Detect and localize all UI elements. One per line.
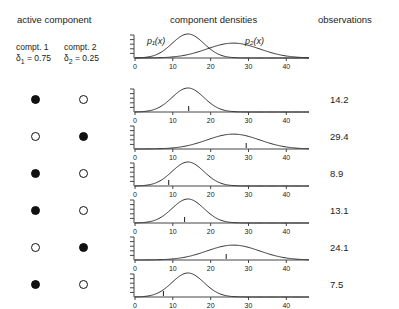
header-observations: observations	[318, 14, 372, 25]
active-component-marker-2[interactable]	[79, 95, 88, 104]
svg-text:20: 20	[207, 63, 215, 70]
density-panel-row: 010203040	[128, 160, 313, 194]
svg-text:10: 10	[169, 63, 177, 70]
svg-text:40: 40	[282, 302, 290, 309]
density-panel-row: 010203040	[128, 234, 313, 268]
svg-text:0: 0	[133, 63, 137, 70]
observation-value: 7.5	[330, 279, 374, 290]
svg-text:40: 40	[282, 63, 290, 70]
active-component-marker-1[interactable]	[31, 243, 40, 252]
legend-component-1-label: compt. 1	[16, 42, 51, 53]
observation-value: 29.4	[330, 131, 374, 142]
active-component-marker-2[interactable]	[79, 169, 88, 178]
active-component-marker-1[interactable]	[31, 280, 40, 289]
active-component-marker-2[interactable]	[79, 280, 88, 289]
density-curve-row	[135, 162, 309, 186]
svg-text:30: 30	[245, 63, 253, 70]
density-panel-row: 010203040	[128, 86, 313, 120]
delta-subscript-2: 2	[69, 58, 73, 65]
legend-component-1: compt. 1 δ1 = 0.75	[16, 42, 51, 67]
svg-text:10: 10	[169, 302, 177, 309]
header-active-component: active component	[17, 14, 91, 25]
legend-component-2-label: compt. 2	[64, 42, 99, 53]
density-plot: 010203040	[128, 160, 313, 198]
density-curve-row	[135, 134, 309, 149]
density-plot: 010203040	[128, 234, 313, 272]
density-curve-row	[135, 199, 309, 223]
legend-component-2-weight: δ2 = 0.25	[64, 53, 99, 67]
active-component-marker-2[interactable]	[79, 243, 88, 252]
observation-value: 14.2	[330, 94, 374, 105]
density-plot: 010203040	[128, 86, 313, 124]
delta-subscript-1: 1	[21, 58, 25, 65]
density-plot: 010203040	[128, 271, 313, 309]
density-curve-row	[135, 88, 309, 112]
density-curve-row	[135, 245, 309, 260]
density-panel-row: 010203040	[128, 123, 313, 157]
observation-value: 24.1	[330, 242, 374, 253]
density-panel-header: 010203040	[128, 32, 313, 66]
legend-component-1-weight: δ1 = 0.75	[16, 53, 51, 67]
density-plot: 010203040	[128, 123, 313, 161]
active-component-marker-1[interactable]	[31, 95, 40, 104]
delta-value-1: = 0.75	[27, 53, 51, 63]
observation-value: 8.9	[330, 168, 374, 179]
delta-value-2: = 0.25	[75, 53, 99, 63]
density-curve-p1	[135, 34, 309, 58]
observation-value: 13.1	[330, 205, 374, 216]
density-panel-row: 010203040	[128, 197, 313, 231]
density-plot: 010203040	[128, 32, 313, 70]
active-component-marker-2[interactable]	[79, 132, 88, 141]
density-panel-row: 010203040	[128, 271, 313, 305]
svg-text:20: 20	[207, 302, 215, 309]
svg-text:30: 30	[245, 302, 253, 309]
density-plot: 010203040	[128, 197, 313, 235]
header-component-densities: component densities	[170, 14, 257, 25]
active-component-marker-1[interactable]	[31, 206, 40, 215]
legend-component-2: compt. 2 δ2 = 0.25	[64, 42, 99, 67]
active-component-marker-2[interactable]	[79, 206, 88, 215]
active-component-marker-1[interactable]	[31, 132, 40, 141]
active-component-marker-1[interactable]	[31, 169, 40, 178]
density-curve-row	[135, 273, 309, 297]
svg-text:0: 0	[133, 302, 137, 309]
